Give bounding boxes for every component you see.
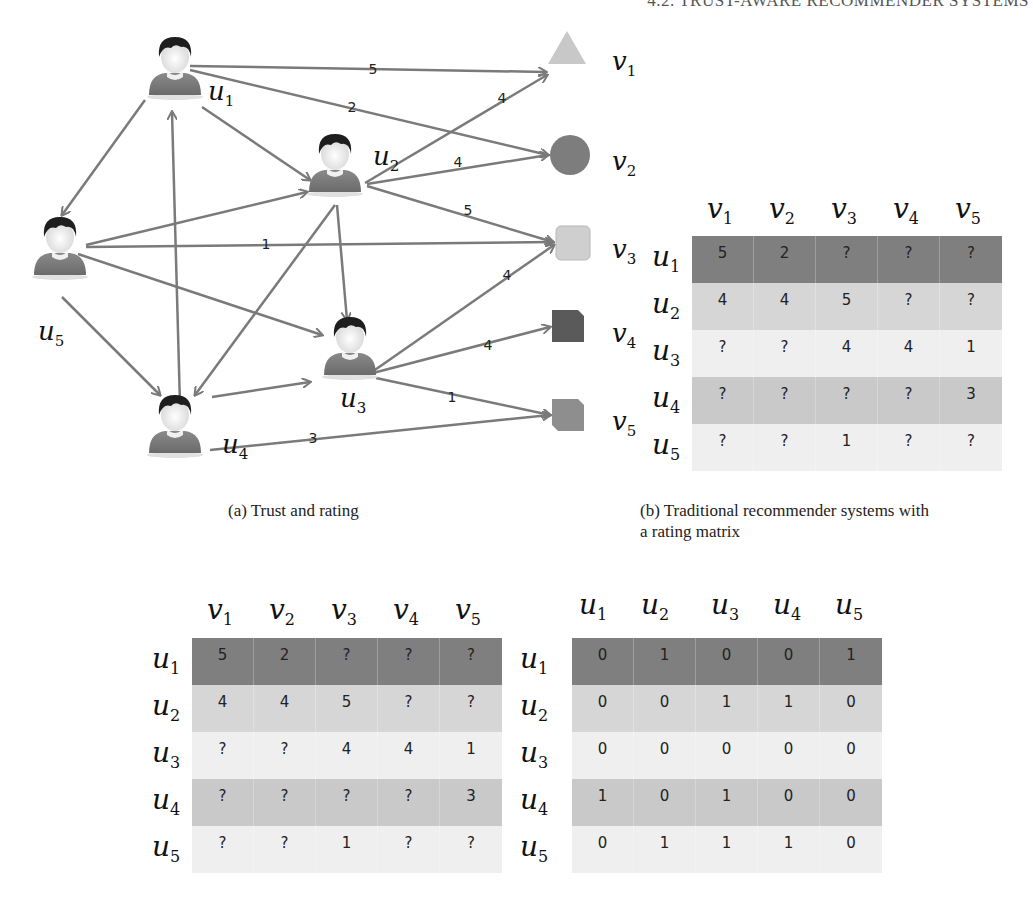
item-node-v1 [548,31,586,64]
row-header-u5: u5 [520,830,548,866]
matrix-cell: 0 [572,826,634,873]
matrix-cell: 4 [692,283,754,330]
matrix-cell: ? [754,424,816,471]
matrix-cell: ? [940,283,1002,330]
matrix-cell: 0 [820,685,882,732]
rating-label: 5 [464,202,473,218]
matrix-cell: ? [816,236,878,283]
trust-edge-u1-u2 [202,107,310,180]
matrix-row: 445?? [692,283,1002,330]
matrix-cell: ? [878,236,940,283]
matrix-cell: 0 [820,779,882,826]
user-avatar-icon [147,395,203,458]
matrix-row: 52??? [692,236,1002,283]
matrix-row: ??441 [692,330,1002,377]
matrix-cell: 1 [820,638,882,685]
matrix-cell: ? [192,732,254,779]
trust-edge-u5-u3 [78,254,322,335]
matrix-cell: ? [316,779,378,826]
cut-square-dark-icon [552,310,584,342]
user-label-u5: u5 [38,316,64,350]
column-header-u2: u2 [641,588,669,624]
row-header-u1: u1 [152,642,180,678]
matrix-cell: ? [254,732,316,779]
rating-edge-u1-v2 [190,70,548,155]
matrix-cell: 0 [758,638,820,685]
rating-edge-u3-v3 [372,245,554,372]
matrix-cell: 4 [254,685,316,732]
matrix-cell: 0 [572,685,634,732]
caption-b-line1: (b) Traditional recommender systems with [640,500,929,522]
item-label-v3: v3 [612,234,636,268]
matrix-cell: 1 [940,330,1002,377]
column-header-u3: u3 [711,588,739,624]
item-node-v3 [556,226,590,260]
matrix-cell: ? [878,377,940,424]
circle-icon [550,135,590,175]
column-header-v2: v2 [269,593,295,629]
matrix-row: ????3 [192,779,502,826]
matrix-cell: 1 [316,826,378,873]
column-header-v3: v3 [831,192,857,228]
matrix-cell: ? [440,638,502,685]
rating-edge-u3-v4 [373,327,550,373]
row-header-u3: u3 [152,736,180,772]
matrix-cell: ? [254,779,316,826]
row-header-u1: u1 [652,240,680,276]
matrix-cell: ? [440,826,502,873]
matrix-cell: ? [378,826,440,873]
row-header-u2: u2 [152,689,180,725]
rounded-square-icon [556,226,590,260]
matrix-row: 01001 [572,638,882,685]
matrix-cell: 1 [634,826,696,873]
user-label-u2: u2 [373,141,399,175]
item-label-v4: v4 [612,318,636,352]
matrix-cell: ? [192,826,254,873]
matrix-cell: ? [692,377,754,424]
matrix-cell: 5 [816,283,878,330]
matrix-cell: 1 [696,779,758,826]
matrix-cell: ? [692,424,754,471]
item-node-v5 [552,399,584,431]
rating-label: 4 [498,90,507,106]
caption-b-line2: a rating matrix [640,521,740,543]
matrix-row: 01110 [572,826,882,873]
column-header-v4: v4 [393,593,419,629]
trust-edge-u2-u3 [337,205,347,320]
matrix-row: ????3 [692,377,1002,424]
matrix-cell: ? [378,638,440,685]
user-node-u4 [147,395,203,458]
rating-label: 5 [369,61,378,77]
trust-edge-u4-u1 [172,112,180,405]
column-header-v1: v1 [707,192,733,228]
matrix-cell: 0 [572,732,634,779]
rating-label: 4 [503,267,512,283]
matrix-cell: 0 [634,779,696,826]
matrix-cell: 5 [316,685,378,732]
row-header-u5: u5 [152,830,180,866]
rating-edge-u3-v5 [376,378,550,415]
row-header-u2: u2 [520,689,548,725]
matrix-cell: 1 [816,424,878,471]
trust-edges [62,100,347,405]
row-header-u5: u5 [652,428,680,464]
matrix-cell: 0 [696,638,758,685]
user-label-u3: u3 [340,383,366,417]
user-node-u5 [32,217,88,280]
user-nodes: u1u2u3u4u5 [32,37,399,463]
matrix-cell: 1 [440,732,502,779]
matrix-cell: 1 [758,685,820,732]
rating-label: 4 [484,337,493,353]
item-node-v4 [552,310,584,342]
matrix-cell: 0 [572,638,634,685]
matrix-cell: ? [878,283,940,330]
rating-matrix-bottom: v1v2v3v4v5u152???u2445??u3??441u4????3u5… [152,593,502,873]
matrix-row: 445?? [192,685,502,732]
matrix-cell: ? [378,685,440,732]
matrix-cell: 3 [940,377,1002,424]
rating-label: 4 [454,154,463,170]
matrix-row: 00110 [572,685,882,732]
matrix-cell: 4 [378,732,440,779]
user-avatar-icon [307,134,363,197]
matrix-cell: 1 [696,685,758,732]
